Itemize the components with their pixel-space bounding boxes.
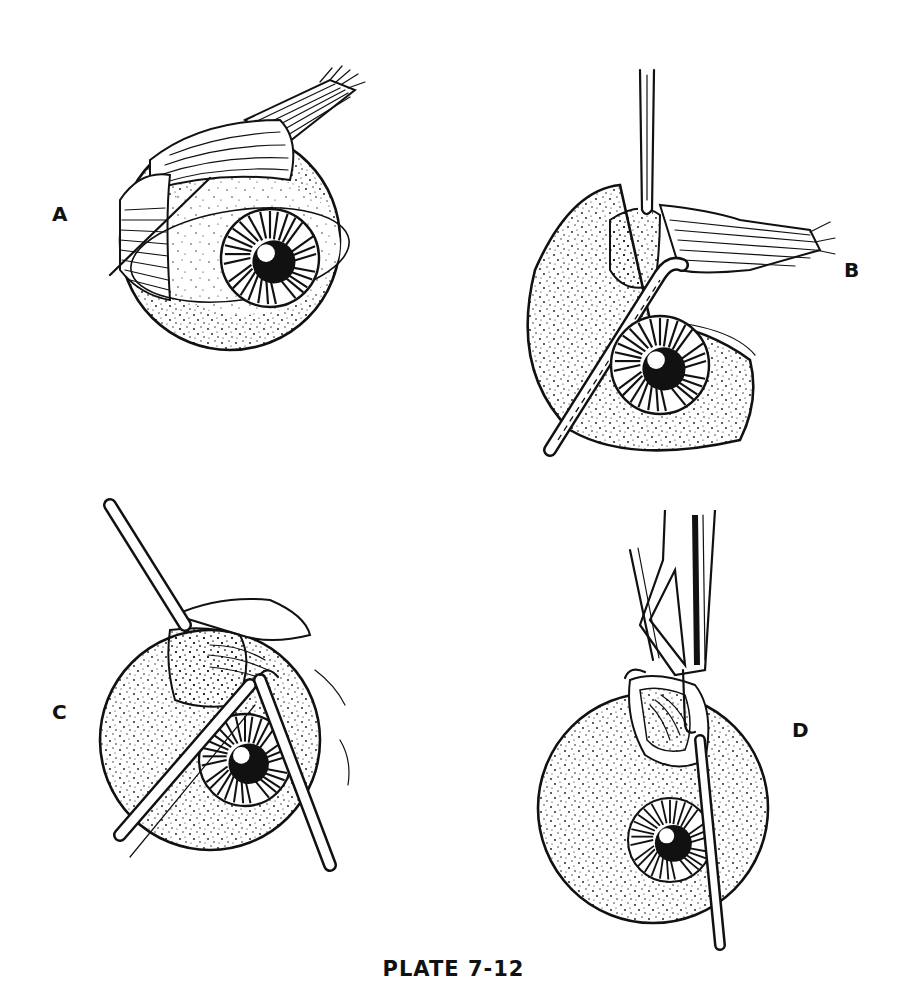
panel-c	[90, 495, 370, 885]
panel-d-illustration	[535, 510, 775, 950]
plate-caption: PLATE 7-12	[0, 957, 907, 981]
panel-label-d: D	[792, 720, 809, 740]
panel-b-illustration	[510, 70, 850, 460]
panel-a	[80, 60, 380, 380]
panel-label-b: B	[844, 260, 859, 280]
panel-a-illustration	[80, 60, 380, 380]
panel-label-a: A	[52, 204, 67, 224]
panel-label-c: C	[52, 702, 67, 722]
panel-b	[510, 70, 850, 460]
panel-d	[535, 510, 775, 950]
iris-d-icon	[628, 798, 712, 882]
plate-figure: A	[0, 0, 907, 998]
iris-a-icon	[221, 209, 319, 307]
iris-b-icon	[611, 316, 709, 414]
panel-c-illustration	[90, 495, 370, 885]
